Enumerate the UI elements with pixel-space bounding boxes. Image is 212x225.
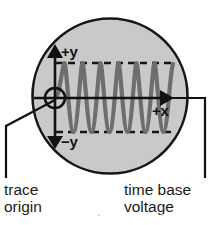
x-positive-axis-label: +x (152, 103, 169, 120)
trace-origin-callout-label: trace origin (4, 181, 42, 216)
trace-origin-callout-line1: trace (4, 181, 42, 198)
clipped-caption-fragment-a: fl (4, 214, 12, 220)
y-negative-axis-label: −y (61, 134, 78, 151)
time-base-callout-label: time base voltage (124, 181, 191, 216)
time-base-callout-line1: time base (124, 181, 191, 198)
clipped-caption-row: fl t l (0, 214, 212, 225)
y-positive-axis-label: +y (61, 44, 78, 61)
clipped-caption-fragment-b: t (96, 214, 100, 220)
clipped-caption-fragment-c: l (160, 214, 163, 220)
